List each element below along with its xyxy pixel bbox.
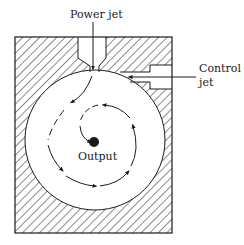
output-port-dot (89, 137, 99, 147)
control-jet-label-line1: Control (199, 62, 241, 75)
control-jet-label-line2: jet (197, 76, 214, 89)
output-label: Output (78, 150, 118, 163)
power-jet-label: Power jet (70, 8, 123, 21)
vortex-amplifier-diagram: Power jet Control jet Output (0, 0, 244, 245)
